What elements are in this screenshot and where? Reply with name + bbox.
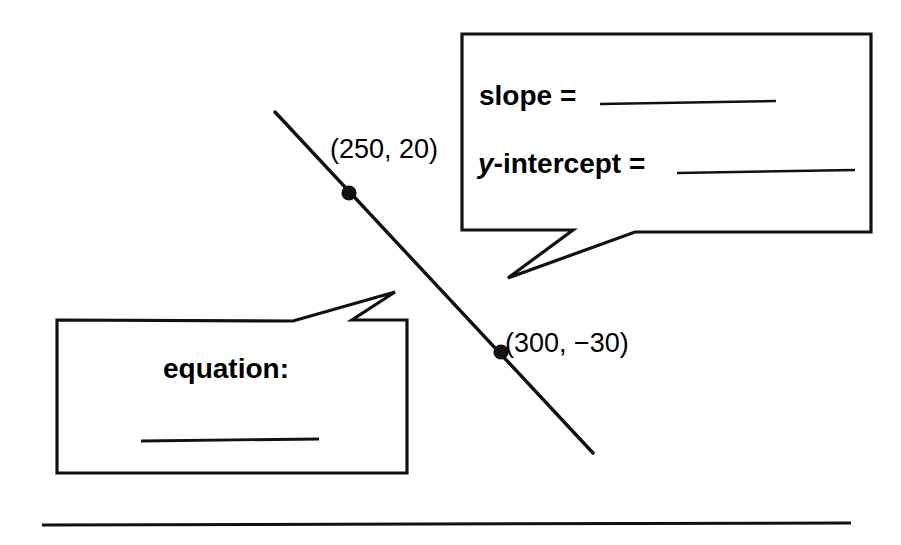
y-variable-italic: y [478, 148, 494, 179]
slope-label: slope = [479, 82, 576, 110]
point-label-1: (250, 20) [330, 136, 438, 163]
worksheet-vector-art [0, 0, 901, 545]
point-label-2: (300, −30) [505, 330, 629, 357]
y-intercept-label: y-intercept = [478, 150, 645, 178]
point-dot-1 [341, 185, 356, 200]
equation-answer-blank[interactable] [141, 439, 319, 441]
equation-heading: equation: [163, 355, 289, 383]
footer-horizontal-rule [42, 523, 851, 525]
worksheet-canvas: (250, 20) (300, −30) slope = y-intercept… [0, 0, 901, 545]
y-intercept-label-rest: -intercept = [494, 148, 646, 179]
